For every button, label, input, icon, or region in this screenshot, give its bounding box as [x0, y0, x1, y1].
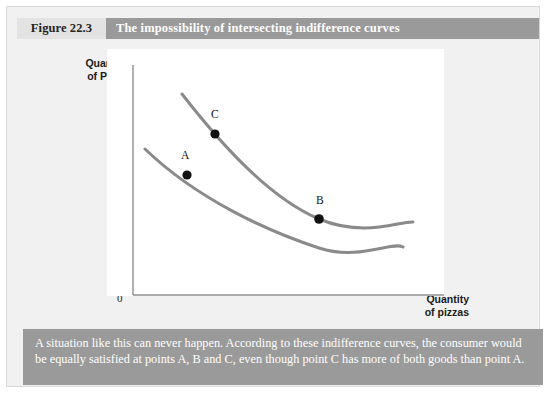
- plot-area: A C B: [107, 49, 444, 296]
- data-point-label-a: A: [181, 149, 189, 161]
- figure-caption: A situation like this can never happen. …: [23, 329, 543, 385]
- data-point-label-b: B: [316, 194, 324, 206]
- data-point-label-c: C: [211, 108, 219, 120]
- figure-panel: Figure 22.3 The impossibility of interse…: [6, 6, 540, 387]
- data-point-c: [210, 129, 219, 138]
- figure-title: The impossibility of intersecting indiff…: [106, 18, 539, 39]
- figure-root: Figure 22.3 The impossibility of interse…: [0, 0, 547, 394]
- indifference-curve-chart: [107, 49, 444, 296]
- x-axis-label-line2: of pizzas: [407, 306, 469, 319]
- data-point-b: [314, 214, 324, 224]
- figure-number-label: Figure 22.3: [17, 18, 106, 39]
- x-axis-label: Quantity of pizzas: [407, 293, 469, 318]
- indifference-curve-lower: [145, 149, 403, 252]
- data-point-a: [182, 170, 191, 179]
- figure-header: Figure 22.3 The impossibility of interse…: [17, 18, 539, 39]
